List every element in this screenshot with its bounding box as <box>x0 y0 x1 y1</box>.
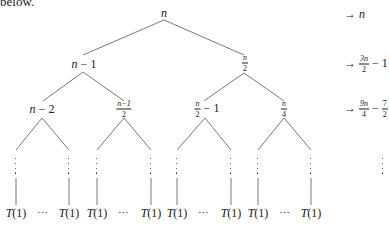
leaf-ellipsis: ⋯ <box>198 207 210 220</box>
edge-l1b-left <box>204 73 244 101</box>
leaf-node-label: T(1) <box>59 207 80 219</box>
level-sum-minus: − <box>369 101 382 115</box>
leaf-node-label: T(1) <box>6 207 27 219</box>
level-sum-1: → 3n2 − 1 <box>344 55 388 74</box>
vertical-ellipsis <box>15 158 17 177</box>
frac-numerator: n <box>242 54 248 64</box>
leaf-ellipsis: ⋯ <box>37 207 49 220</box>
edge-l2-2-right <box>205 118 231 150</box>
edge-l2-1-right <box>124 118 151 150</box>
leaf-node-label: T(1) <box>167 207 188 219</box>
frac-numerator: n−1 <box>116 100 131 110</box>
vertical-ellipsis <box>96 158 98 177</box>
level-sum-suffix: − 1 <box>369 56 388 70</box>
edge-l2-3-right <box>284 118 311 150</box>
node-suffix: − 1 <box>201 101 220 115</box>
leaf-arg: (1) <box>307 206 321 220</box>
leaf-node-label: T(1) <box>87 207 108 219</box>
leaf-arg: (1) <box>147 206 161 220</box>
frac-denominator: 4 <box>362 110 366 119</box>
leaf-node-label: T(1) <box>141 207 162 219</box>
leaf-arg: (1) <box>173 206 187 220</box>
edge-l2-1-left <box>97 118 124 150</box>
leaf-T: T <box>301 206 308 220</box>
node-n-minus-1: n − 1 <box>72 58 97 70</box>
level-sum-value: n <box>359 7 365 21</box>
leaf-node-label: T(1) <box>221 207 242 219</box>
frac-denominator: 2 <box>383 110 387 119</box>
level-sum-0: → n <box>344 8 365 20</box>
frac-denominator: 2 <box>243 64 247 73</box>
frac-denominator: 2 <box>122 110 126 119</box>
frac-denominator: 4 <box>282 110 286 119</box>
vertical-ellipsis <box>150 158 152 177</box>
edge-l2-2-left <box>177 118 205 150</box>
arrow-icon: → <box>344 56 356 70</box>
leaf-arg: (1) <box>12 206 26 220</box>
leaf-arg: (1) <box>227 206 241 220</box>
edge-l1b-right <box>244 73 284 101</box>
leaf-T: T <box>6 206 13 220</box>
leaf-T: T <box>248 206 255 220</box>
frac-denominator: 2 <box>196 110 200 119</box>
leaf-T: T <box>221 206 228 220</box>
vertical-ellipsis <box>68 158 70 177</box>
node-n-over-4: n4 <box>281 100 287 119</box>
node-n-over-2-minus-1: n2 − 1 <box>195 100 220 119</box>
leaf-arg: (1) <box>254 206 268 220</box>
leaf-arg: (1) <box>93 206 107 220</box>
leaf-arg: (1) <box>65 206 79 220</box>
node-n-minus-1-over-2: n−12 <box>116 100 131 119</box>
vertical-ellipsis <box>176 158 178 177</box>
edge-l2-3-left <box>258 118 284 150</box>
edge-l2-0-left <box>16 118 42 150</box>
arrow-icon: → <box>344 7 356 21</box>
leaf-ellipsis: ⋯ <box>279 207 291 220</box>
edge-l1a-right <box>83 72 124 101</box>
leaf-T: T <box>167 206 174 220</box>
frac-numerator: 7 <box>382 100 388 110</box>
vertical-ellipsis <box>257 158 259 177</box>
node-n-over-2: n2 <box>242 54 248 73</box>
node-suffix: − 1 <box>78 57 97 71</box>
level-sum-2: → 9n4 − 72 <box>344 100 388 119</box>
frac-denominator: 2 <box>362 65 366 74</box>
leaf-ellipsis: ⋯ <box>118 207 130 220</box>
node-suffix: − 2 <box>36 102 55 116</box>
leaf-T: T <box>59 206 66 220</box>
edge-l2-0-right <box>42 118 69 150</box>
leaf-T: T <box>87 206 94 220</box>
vertical-ellipsis <box>310 158 312 177</box>
frac-numerator: n <box>281 100 287 110</box>
root-node-label: n <box>161 7 167 19</box>
leaf-T: T <box>141 206 148 220</box>
frac-numerator: 3n <box>359 55 369 65</box>
level-sum-vertical-ellipsis <box>382 158 384 177</box>
node-n-minus-2: n − 2 <box>30 103 55 115</box>
leaf-node-label: T(1) <box>301 207 322 219</box>
edge-root-left <box>83 20 164 55</box>
edge-root-right <box>164 20 244 55</box>
leaf-node-label: T(1) <box>248 207 269 219</box>
vertical-ellipsis <box>230 158 232 177</box>
edge-l1a-left <box>43 72 83 101</box>
frac-numerator: 9n <box>359 100 369 110</box>
arrow-icon: → <box>344 101 356 115</box>
